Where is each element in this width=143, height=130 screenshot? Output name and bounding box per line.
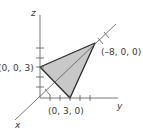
x-axis-label: x bbox=[14, 120, 21, 130]
vertex-label-x: (–8, 0, 0) bbox=[101, 47, 141, 57]
coordinate-diagram: z y x (0, 0, 3) (–8, 0, 0) (0, 3, 0) bbox=[0, 0, 143, 130]
vertex-label-z: (0, 0, 3) bbox=[0, 63, 34, 73]
vertex-label-y: (0, 3, 0) bbox=[48, 106, 84, 116]
z-axis-label: z bbox=[30, 8, 36, 18]
y-axis-label: y bbox=[116, 101, 123, 111]
